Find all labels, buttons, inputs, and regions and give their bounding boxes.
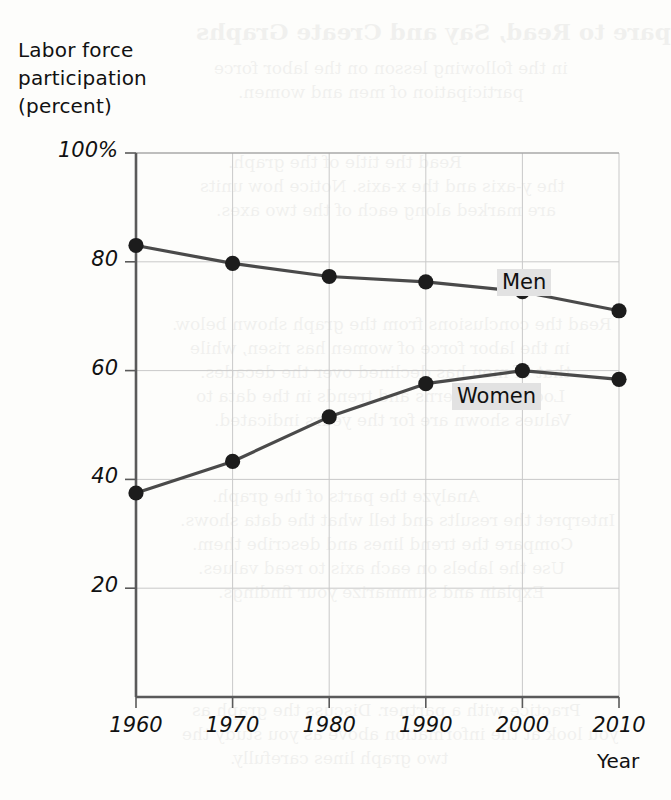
y-axis-tick-80: 80: [26, 247, 118, 271]
y-axis-tick-100: 100%: [26, 138, 118, 162]
x-axis-tick-1990: 1990: [371, 713, 481, 737]
x-axis-tick-1980: 1980: [274, 713, 384, 737]
x-axis-tick-2000: 2000: [467, 713, 577, 737]
x-axis-tick-1960: 1960: [81, 713, 191, 737]
chart-svg: [0, 0, 671, 800]
x-axis-tick-1970: 1970: [178, 713, 288, 737]
x-axis-tick-2010: 2010: [564, 713, 671, 737]
y-axis-title-line-3: (percent): [18, 92, 147, 120]
y-axis-tick-60: 60: [26, 356, 118, 380]
y-axis-title-line-1: Labor force: [18, 36, 147, 64]
y-axis-tick-20: 20: [26, 573, 118, 597]
axis-lines: [125, 153, 619, 708]
y-axis-tick-40: 40: [26, 464, 118, 488]
y-axis-title: Labor force participation (percent): [18, 36, 147, 120]
gridlines: [136, 153, 619, 697]
data-series-group: [128, 238, 626, 501]
y-axis-title-line-2: participation: [18, 64, 147, 92]
x-axis-title: Year: [597, 749, 639, 773]
series-label-men: Men: [497, 269, 551, 296]
series-label-women: Women: [452, 383, 541, 410]
line-chart: 100%80604020 196019701980199020002010 Me…: [0, 0, 671, 800]
